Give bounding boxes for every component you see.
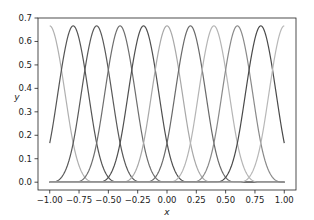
x-tick-label: 1.00 — [275, 195, 294, 205]
x-tick-label: 0.50 — [216, 195, 235, 205]
y-tick-label: 0.6 — [18, 36, 32, 46]
x-tick-label: 0.75 — [245, 195, 264, 205]
x-tick-label: 0.00 — [158, 195, 177, 205]
y-tick-label: 0.1 — [18, 154, 32, 164]
y-tick-label: 0.3 — [18, 107, 32, 117]
y-tick-label: 0.7 — [18, 13, 32, 23]
y-tick-label: 0.2 — [18, 130, 32, 140]
x-tick-label: −1.00 — [37, 195, 63, 205]
x-tick-label: −0.75 — [66, 195, 92, 205]
y-tick-label: 0.4 — [18, 83, 32, 93]
x-tick-label: −0.25 — [125, 195, 151, 205]
x-tick-label: 0.25 — [187, 195, 206, 205]
chart: −1.00−0.75−0.50−0.250.000.250.500.751.00… — [0, 0, 314, 220]
y-tick-label: 0.5 — [18, 60, 32, 70]
y-axis-label: y — [13, 92, 20, 102]
x-tick-label: −0.50 — [95, 195, 121, 205]
y-tick-label: 0.0 — [18, 177, 32, 187]
x-axis-label: x — [163, 207, 170, 217]
